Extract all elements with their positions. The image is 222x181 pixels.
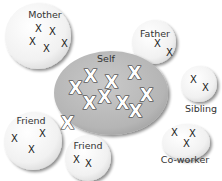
mark: X bbox=[183, 138, 190, 149]
relationship-diagram: Mother X X X X X Father X X X X Sibling … bbox=[0, 0, 222, 181]
group-friend-2: Friend X X bbox=[65, 135, 111, 181]
mark: X bbox=[189, 128, 196, 139]
mark: X bbox=[39, 128, 46, 139]
mark: X bbox=[171, 127, 178, 138]
mark: X bbox=[35, 23, 42, 34]
mark: X bbox=[61, 38, 68, 49]
sibling-circle bbox=[181, 66, 217, 102]
self-label: Self bbox=[97, 53, 116, 64]
mark: X bbox=[28, 144, 35, 155]
group-coworker: X X X Co-worker bbox=[161, 124, 210, 165]
mark: X bbox=[129, 101, 142, 121]
group-label: Friend bbox=[73, 140, 102, 151]
mark: X bbox=[84, 66, 97, 86]
mark: X bbox=[73, 154, 80, 165]
group-mother: Mother X X X X X bbox=[5, 3, 71, 69]
mark: X bbox=[128, 63, 141, 83]
mark: X bbox=[83, 93, 96, 113]
group-label: Sibling bbox=[185, 103, 217, 114]
mark: X bbox=[154, 38, 161, 49]
mark: X bbox=[61, 113, 74, 133]
mark: X bbox=[116, 93, 129, 113]
mark: X bbox=[49, 26, 56, 37]
mark: X bbox=[85, 158, 92, 169]
group-label: Co-worker bbox=[161, 154, 210, 165]
group-friend-1: Friend X X X bbox=[4, 112, 62, 170]
mark: X bbox=[98, 87, 111, 107]
group-label: Mother bbox=[28, 9, 62, 20]
group-self: Self X X X X X X X X X X bbox=[54, 51, 168, 135]
mark: X bbox=[190, 74, 197, 85]
mark: X bbox=[69, 78, 82, 98]
mark: X bbox=[11, 133, 18, 144]
mark: X bbox=[29, 36, 36, 47]
mark: X bbox=[166, 47, 173, 58]
mark: X bbox=[202, 82, 209, 93]
group-sibling: X X Sibling bbox=[181, 66, 217, 114]
group-label: Friend bbox=[16, 115, 45, 126]
mark: X bbox=[43, 43, 50, 54]
